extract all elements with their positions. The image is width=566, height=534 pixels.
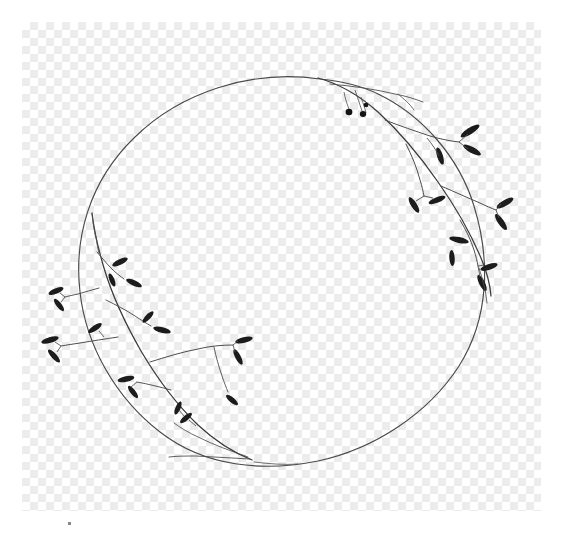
leaf-icon	[117, 374, 135, 383]
leaf-icon	[235, 335, 254, 345]
leaf-pair-a	[459, 122, 482, 157]
wreath-ring-group	[79, 77, 485, 466]
botanical-wreath-artwork	[0, 0, 566, 534]
sprig-main-stem	[92, 213, 252, 460]
leaf-icon	[52, 297, 65, 312]
upper-right-sprig	[318, 78, 515, 303]
leaf-icon	[41, 335, 60, 346]
leaf-pair-d	[475, 261, 498, 292]
stray-pixel-speck	[68, 522, 71, 525]
leaf-pair-f	[48, 285, 66, 312]
sprig-branch-b	[137, 382, 171, 390]
leaf-pair-c	[232, 335, 254, 366]
image-canvas	[0, 0, 566, 534]
leaf-pair-b	[407, 194, 447, 214]
sprig-main-stem	[318, 78, 491, 296]
sprig-tail-twig-2	[174, 423, 248, 457]
leaf-icon	[111, 256, 129, 268]
leaf-icon	[449, 250, 456, 266]
leaf-icon	[428, 194, 447, 206]
sprig-branch-d	[61, 337, 118, 346]
leaf-icon	[141, 310, 155, 324]
sprig-tail-twig-3	[254, 462, 298, 464]
leaf-icon	[153, 325, 172, 335]
leaf-icon	[225, 393, 240, 407]
sprig-branch-f	[65, 288, 99, 297]
leaf-icon	[459, 122, 481, 139]
leaf-icon	[462, 143, 482, 158]
sprig-branch-c	[150, 345, 233, 362]
leaf-icon	[480, 261, 499, 272]
leaf-icon	[449, 235, 470, 245]
leaf-pair-d	[41, 335, 62, 364]
wreath-ring-circle	[79, 77, 485, 466]
leaf-icon	[107, 273, 117, 288]
leaf-pair-c	[493, 196, 515, 232]
leaf-icon	[493, 212, 509, 231]
leaf-icon	[126, 384, 139, 399]
leaf-icon	[434, 147, 445, 166]
berry-icon	[346, 109, 353, 115]
leaf-icon	[495, 196, 514, 211]
berry-icon	[360, 111, 366, 117]
leaf-icon	[46, 348, 62, 364]
leaf-icon	[125, 277, 143, 289]
berry-icon	[364, 103, 369, 107]
sprig-branch-c-drop	[214, 347, 228, 392]
leaf-icon	[232, 348, 245, 366]
